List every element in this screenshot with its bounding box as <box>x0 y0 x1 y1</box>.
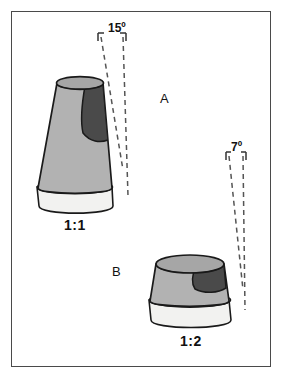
cone-a-group <box>37 77 113 214</box>
diagram-canvas <box>0 0 284 380</box>
angle-label-a: 15º <box>108 22 126 34</box>
figure-root: 15º 7º A B 1:1 1:2 <box>0 0 284 380</box>
object-label-b: B <box>112 265 121 278</box>
angle-indicator-b <box>226 152 246 310</box>
ratio-label-a: 1:1 <box>64 218 86 232</box>
object-label-a: A <box>160 92 169 105</box>
ratio-label-b: 1:2 <box>180 334 202 348</box>
angle-label-b: 7º <box>231 141 242 153</box>
angle-b-slope-dashed-line <box>229 156 243 290</box>
cone-b-group <box>149 255 231 328</box>
angle-b-vertical-dashed-line <box>243 156 245 310</box>
angle-a-vertical-dashed-line <box>123 37 128 196</box>
